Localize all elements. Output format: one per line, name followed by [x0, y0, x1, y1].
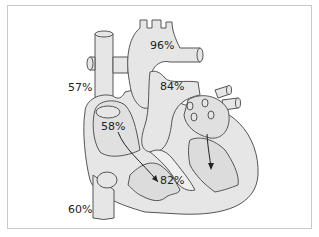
superior-vena-cava [95, 34, 113, 98]
right-atrium-saturation-label: 58% [101, 121, 125, 132]
inferior-vena-cava-saturation-label: 60% [68, 204, 92, 215]
right-ventricle-saturation-label: 82% [160, 175, 184, 186]
superior-vena-cava-saturation-label: 57% [68, 82, 92, 93]
heart-diagram [0, 0, 319, 237]
pulmonary-artery-saturation-label: 84% [160, 81, 184, 92]
aorta-saturation-label: 96% [150, 40, 174, 51]
